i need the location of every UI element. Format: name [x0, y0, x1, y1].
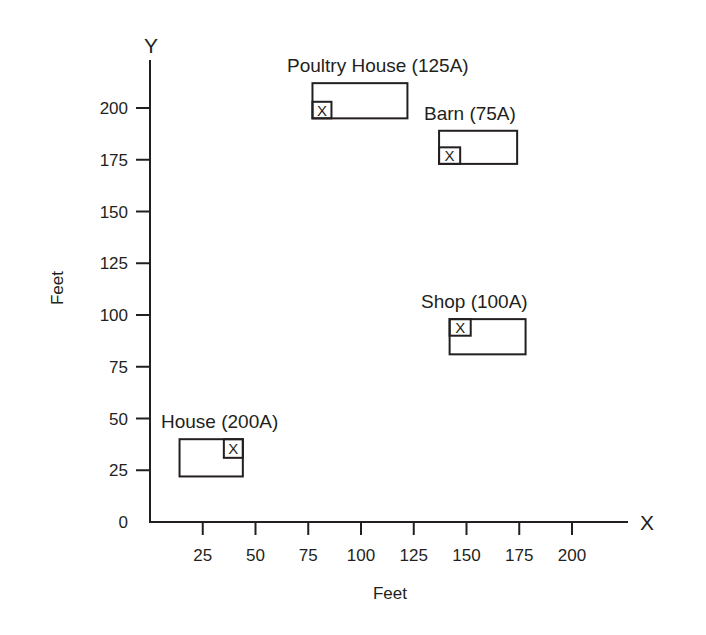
x-tick-label: 175 — [505, 546, 533, 565]
axes — [149, 60, 628, 523]
buildings: XHouse (200A)XPoultry House (125A)XBarn … — [161, 55, 528, 476]
y-axis-letter: Y — [144, 34, 158, 57]
x-tick-label: 150 — [452, 546, 480, 565]
y-tick-label: 175 — [100, 151, 128, 170]
x-tick-label: 25 — [193, 546, 212, 565]
x-axis-label: Feet — [373, 584, 407, 603]
y-tick-label: 25 — [109, 461, 128, 480]
y-tick-label: 200 — [100, 99, 128, 118]
x-tick-label: 200 — [558, 546, 586, 565]
x-ticks: 255075100125150175200 — [193, 522, 586, 565]
building-label: House (200A) — [161, 411, 278, 432]
service-mark: X — [445, 147, 455, 164]
service-mark: X — [317, 102, 327, 119]
building-label: Barn (75A) — [424, 103, 516, 124]
y-tick-label: 100 — [100, 306, 128, 325]
x-tick-label: 100 — [347, 546, 375, 565]
building-house: XHouse (200A) — [161, 411, 278, 476]
y-tick-label: 75 — [109, 358, 128, 377]
building-shop: XShop (100A) — [421, 291, 528, 354]
y-tick-label: 150 — [100, 203, 128, 222]
y-tick-label: 0 — [119, 513, 128, 532]
y-tick-label: 50 — [109, 410, 128, 429]
site-plan-chart: 0255075100125150175200 25507510012515017… — [0, 0, 706, 635]
y-tick-label: 125 — [100, 254, 128, 273]
x-axis-letter: X — [640, 511, 654, 534]
building-label: Poultry House (125A) — [287, 55, 469, 76]
x-tick-label: 75 — [299, 546, 318, 565]
x-tick-label: 50 — [246, 546, 265, 565]
building-label: Shop (100A) — [421, 291, 528, 312]
service-mark: X — [455, 319, 465, 336]
service-mark: X — [228, 440, 238, 457]
y-ticks: 0255075100125150175200 — [100, 99, 150, 532]
x-tick-label: 125 — [400, 546, 428, 565]
building-barn: XBarn (75A) — [424, 103, 517, 164]
y-axis-label: Feet — [48, 271, 67, 305]
